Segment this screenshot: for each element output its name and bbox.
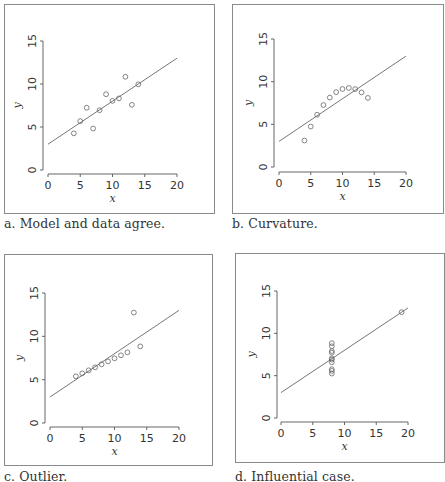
caption: b. Curvature. bbox=[232, 216, 318, 231]
fit-line bbox=[48, 58, 177, 144]
data-point bbox=[73, 374, 78, 379]
fit-line bbox=[50, 310, 179, 397]
data-point bbox=[131, 310, 136, 315]
data-point bbox=[359, 90, 364, 95]
data-point bbox=[119, 353, 124, 358]
x-tick-label: 0 bbox=[47, 432, 54, 445]
data-point bbox=[327, 95, 332, 100]
x-tick-label: 5 bbox=[309, 427, 316, 440]
data-point bbox=[129, 102, 134, 107]
data-point bbox=[91, 126, 96, 131]
data-point bbox=[112, 356, 117, 361]
data-point bbox=[106, 359, 111, 364]
x-tick-label: 5 bbox=[79, 432, 86, 445]
y-tick-label: 0 bbox=[26, 167, 39, 174]
data-point bbox=[84, 105, 89, 110]
fit-line bbox=[281, 308, 408, 393]
scatter-plot: 05101505101520xy bbox=[220, 0, 440, 240]
data-point bbox=[125, 350, 130, 355]
y-tick-label: 5 bbox=[260, 372, 273, 379]
panel-b: 05101505101520xy b. Curvature. bbox=[220, 0, 440, 240]
scatter-plot: 05101505101520xy bbox=[0, 240, 220, 482]
y-tick-label: 15 bbox=[28, 286, 41, 300]
x-tick-label: 5 bbox=[307, 177, 314, 190]
x-tick-label: 15 bbox=[138, 179, 152, 192]
y-tick-label: 10 bbox=[257, 75, 270, 89]
data-point bbox=[71, 131, 76, 136]
scatter-plot: 05101505101520xy bbox=[220, 240, 440, 482]
x-tick-label: 5 bbox=[77, 179, 84, 192]
y-tick-label: 15 bbox=[26, 34, 39, 48]
x-tick-label: 15 bbox=[369, 427, 383, 440]
caption: d. Influential case. bbox=[235, 469, 355, 482]
x-tick-label: 15 bbox=[140, 432, 154, 445]
x-tick-label: 20 bbox=[170, 179, 184, 192]
y-tick-label: 15 bbox=[257, 32, 270, 46]
x-axis-title: x bbox=[109, 192, 116, 205]
x-tick-label: 0 bbox=[45, 179, 52, 192]
data-point bbox=[138, 344, 143, 349]
y-tick-label: 5 bbox=[26, 124, 39, 131]
data-point bbox=[334, 90, 339, 95]
y-tick-label: 0 bbox=[28, 420, 41, 427]
x-tick-label: 20 bbox=[401, 427, 415, 440]
y-axis-title: y bbox=[242, 99, 255, 107]
scatter-plot: 05101505101520xy bbox=[0, 0, 220, 240]
data-point bbox=[329, 344, 334, 349]
y-axis-title: y bbox=[13, 354, 26, 362]
x-tick-label: 20 bbox=[399, 177, 413, 190]
data-point bbox=[302, 138, 307, 143]
y-tick-label: 10 bbox=[26, 77, 39, 91]
y-tick-label: 5 bbox=[28, 376, 41, 383]
caption: c. Outlier. bbox=[4, 469, 67, 482]
y-tick-label: 5 bbox=[257, 121, 270, 128]
data-point bbox=[123, 74, 128, 79]
y-axis-title: y bbox=[11, 102, 24, 110]
y-tick-label: 15 bbox=[260, 284, 273, 298]
data-point bbox=[346, 86, 351, 91]
x-axis-title: x bbox=[341, 440, 348, 453]
x-tick-label: 15 bbox=[367, 177, 381, 190]
data-point bbox=[340, 87, 345, 92]
x-tick-label: 10 bbox=[106, 179, 120, 192]
data-point bbox=[308, 124, 313, 129]
data-point bbox=[321, 103, 326, 108]
x-tick-label: 10 bbox=[336, 177, 350, 190]
panel-a: 05101505101520xy a. Model and data agree… bbox=[0, 0, 220, 240]
x-tick-label: 10 bbox=[108, 432, 122, 445]
x-axis-title: x bbox=[339, 190, 346, 203]
caption: a. Model and data agree. bbox=[4, 216, 165, 231]
x-tick-label: 10 bbox=[338, 427, 352, 440]
x-tick-label: 0 bbox=[276, 177, 283, 190]
y-axis-title: y bbox=[245, 351, 258, 359]
y-tick-label: 10 bbox=[260, 326, 273, 340]
data-point bbox=[366, 95, 371, 100]
fit-line bbox=[279, 56, 406, 141]
x-tick-label: 0 bbox=[278, 427, 285, 440]
x-axis-title: x bbox=[111, 445, 118, 458]
y-tick-label: 0 bbox=[257, 164, 270, 171]
panel-c: 05101505101520xy c. Outlier. bbox=[0, 240, 220, 482]
panel-d: 05101505101520xy d. Influential case. bbox=[220, 240, 440, 482]
x-tick-label: 20 bbox=[172, 432, 186, 445]
y-tick-label: 10 bbox=[28, 329, 41, 343]
y-tick-label: 0 bbox=[260, 415, 273, 422]
data-point bbox=[104, 92, 109, 97]
